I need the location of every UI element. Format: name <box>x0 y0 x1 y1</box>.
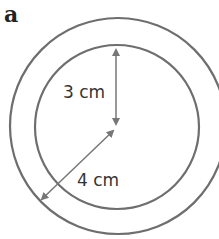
outer-circle <box>10 18 219 234</box>
concentric-circles-diagram: a 3 cm 4 cm <box>0 0 219 239</box>
inner-radius-label: 3 cm <box>63 82 105 102</box>
outer-radius-label: 4 cm <box>77 170 119 190</box>
panel-label: a <box>4 1 18 27</box>
